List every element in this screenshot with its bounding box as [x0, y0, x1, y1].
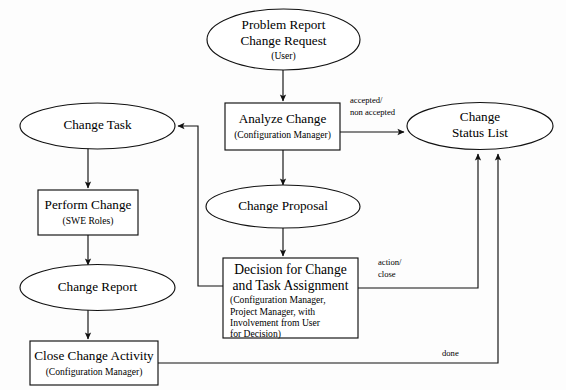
problem-report-line1: Problem Report	[242, 17, 326, 32]
node-close-change-activity[interactable]: Close Change Activity (Configuration Man…	[30, 341, 158, 385]
edge-label-action-line2: close	[378, 269, 396, 279]
perform-change-line1: Perform Change	[45, 197, 132, 212]
decision-for-change-line1: Decision for Change	[234, 262, 347, 277]
decision-for-change-sub-line2: Project Manager, with	[230, 306, 315, 317]
decision-for-change-line2: and Task Assignment	[233, 278, 349, 293]
change-management-flowchart: accepted/ non accepted action/ close don…	[0, 0, 566, 390]
analyze-change-sub-role: (Configuration Manager)	[234, 129, 331, 141]
close-change-activity-line1: Close Change Activity	[34, 348, 154, 363]
node-perform-change[interactable]: Perform Change (SWE Roles)	[38, 190, 138, 235]
decision-for-change-sub-line4: for Decision)	[230, 328, 281, 340]
change-proposal-line1: Change Proposal	[238, 198, 328, 213]
problem-report-line2: Change Request	[240, 33, 326, 48]
node-change-report[interactable]: Change Report	[20, 265, 175, 311]
flowchart-canvas: accepted/ non accepted action/ close don…	[0, 0, 566, 390]
edge-decision-to-change-status-list	[358, 154, 478, 288]
node-change-proposal[interactable]: Change Proposal	[206, 185, 360, 228]
change-status-list-line1: Change	[460, 109, 500, 124]
node-change-task[interactable]: Change Task	[20, 103, 175, 149]
edge-label-accepted-line2: non accepted	[350, 107, 396, 117]
node-change-status-list[interactable]: Change Status List	[407, 103, 553, 150]
analyze-change-line1: Analyze Change	[239, 111, 327, 126]
perform-change-sub-role: (SWE Roles)	[63, 215, 114, 227]
decision-for-change-sub-line3: Involvement from User	[230, 317, 321, 328]
edge-label-done: done	[442, 348, 459, 358]
close-change-activity-sub-role: (Configuration Manager)	[46, 366, 143, 378]
decision-for-change-sub-line1: (Configuration Manager,	[230, 294, 326, 306]
edge-label-accepted-line1: accepted/	[350, 95, 383, 105]
node-analyze-change[interactable]: Analyze Change (Configuration Manager)	[225, 103, 340, 150]
problem-report-sub-role: (User)	[271, 50, 296, 62]
change-status-list-line2: Status List	[452, 125, 508, 140]
change-report-line1: Change Report	[58, 279, 138, 294]
node-decision-for-change[interactable]: Decision for Change and Task Assignment …	[223, 258, 358, 340]
node-problem-report-change-request[interactable]: Problem Report Change Request (User)	[207, 9, 360, 70]
edge-label-action-line1: action/	[378, 257, 402, 267]
change-task-line1: Change Task	[63, 117, 131, 132]
